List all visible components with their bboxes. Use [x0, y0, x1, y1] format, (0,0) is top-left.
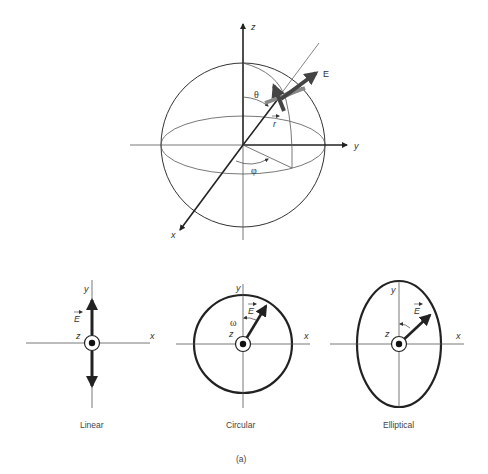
- circular-z-dot: [240, 341, 246, 347]
- figure-caption: (a): [236, 454, 247, 464]
- theta-label: θ: [254, 89, 259, 100]
- polarization-figure: y z x r θ φ E: [0, 0, 488, 474]
- elliptical-z-label: z: [384, 329, 390, 339]
- circular-omega-label: ω: [230, 317, 237, 328]
- phi-arc: [236, 159, 268, 164]
- circular-x-label: x: [303, 331, 309, 341]
- sphere-diagram: y z x r θ φ E: [130, 22, 359, 240]
- svg-text:E: E: [248, 306, 255, 316]
- linear-z-label: z: [75, 331, 81, 341]
- meridian-arc: [243, 63, 292, 168]
- phi-label: φ: [251, 165, 257, 176]
- circular-rotation-arc: [244, 318, 256, 320]
- linear-x-label: x: [149, 331, 155, 341]
- circular-panel: y x z ω E Circular: [176, 283, 310, 430]
- circular-y-label: y: [235, 283, 241, 293]
- elliptical-y-label: y: [390, 285, 396, 295]
- circular-e-label: E: [248, 304, 256, 316]
- linear-y-label: y: [83, 284, 89, 294]
- z-axis-label: z: [250, 22, 256, 32]
- linear-z-dot: [89, 340, 95, 346]
- x-axis: [180, 145, 243, 230]
- e-field-label: E: [323, 69, 329, 79]
- circular-caption: Circular: [226, 420, 255, 430]
- svg-text:E: E: [74, 314, 81, 324]
- elliptical-e-label: E: [414, 304, 422, 316]
- elliptical-caption: Elliptical: [383, 420, 414, 430]
- linear-caption: Linear: [80, 420, 104, 430]
- y-axis-label: y: [353, 141, 359, 151]
- svg-text:E: E: [414, 306, 421, 316]
- linear-e-label: E: [74, 312, 82, 324]
- elliptical-rotation-arc: [400, 324, 410, 328]
- svg-text:r: r: [273, 119, 277, 129]
- diagram-canvas: y z x r θ φ E: [0, 0, 488, 474]
- circular-z-label: z: [228, 329, 234, 339]
- linear-panel: y x z E Linear: [26, 280, 155, 430]
- x-axis-label: x: [170, 230, 176, 240]
- elliptical-panel: y x z E Elliptical: [330, 281, 464, 430]
- elliptical-z-dot: [396, 341, 402, 347]
- elliptical-x-label: x: [455, 331, 461, 341]
- e-field-arrow: [281, 73, 316, 99]
